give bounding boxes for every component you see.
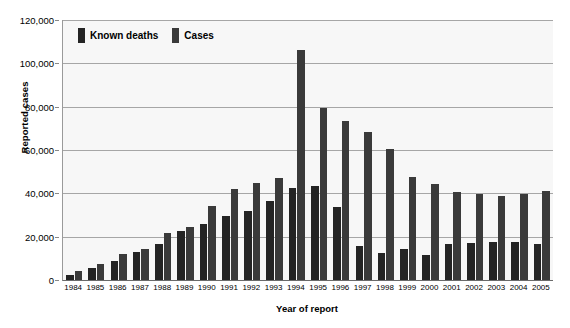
x-tick-label: 1999 bbox=[396, 283, 418, 292]
bar-known-deaths bbox=[177, 231, 185, 280]
bar-cases bbox=[364, 132, 372, 280]
year-bar-group bbox=[222, 20, 238, 280]
x-tick-label: 1985 bbox=[84, 283, 106, 292]
x-tick-label: 1986 bbox=[107, 283, 129, 292]
y-tick-label: 100,000 bbox=[20, 58, 54, 69]
bar-cases bbox=[231, 189, 239, 280]
bar-cases bbox=[342, 121, 350, 280]
year-bar-group bbox=[422, 20, 438, 280]
y-tick-mark bbox=[55, 237, 59, 238]
bar-known-deaths bbox=[467, 243, 475, 280]
x-tick-label: 1996 bbox=[329, 283, 351, 292]
bar-known-deaths bbox=[311, 186, 319, 280]
year-bar-group bbox=[445, 20, 461, 280]
bar-known-deaths bbox=[133, 252, 141, 280]
bar-cases bbox=[476, 194, 484, 280]
bar-known-deaths bbox=[422, 255, 430, 280]
year-bar-group bbox=[534, 20, 550, 280]
year-bar-group bbox=[133, 20, 149, 280]
year-bar-group bbox=[111, 20, 127, 280]
y-tick-label: 0 bbox=[49, 275, 54, 286]
legend-label: Cases bbox=[184, 30, 213, 41]
bar-cases bbox=[498, 196, 506, 281]
x-tick-label: 1984 bbox=[62, 283, 84, 292]
y-axis-tick-labels: 120,000100,00080,00060,00040,00020,0000 bbox=[0, 0, 62, 328]
x-tick-label: 2003 bbox=[485, 283, 507, 292]
year-bar-group bbox=[266, 20, 282, 280]
bar-cases bbox=[297, 50, 305, 280]
x-tick-label: 1990 bbox=[196, 283, 218, 292]
bar-cases bbox=[75, 271, 83, 280]
year-bar-group bbox=[378, 20, 394, 280]
x-tick-label: 1992 bbox=[240, 283, 262, 292]
x-tick-label: 2002 bbox=[463, 283, 485, 292]
x-tick-label: 1997 bbox=[352, 283, 374, 292]
bar-chart: Reported cases 120,000100,00080,00060,00… bbox=[0, 0, 570, 328]
bar-cases bbox=[453, 192, 461, 280]
year-bar-group bbox=[333, 20, 349, 280]
bar-cases bbox=[97, 264, 105, 280]
year-bar-group bbox=[200, 20, 216, 280]
year-bar-group bbox=[356, 20, 372, 280]
bar-known-deaths bbox=[333, 207, 341, 280]
bar-cases bbox=[409, 177, 417, 280]
y-tick-mark bbox=[55, 150, 59, 151]
year-bar-group bbox=[66, 20, 82, 280]
gridline bbox=[63, 280, 553, 281]
legend-swatch-icon bbox=[172, 28, 179, 43]
bar-cases bbox=[186, 227, 194, 280]
bar-cases bbox=[253, 183, 261, 281]
x-tick-label: 2004 bbox=[507, 283, 529, 292]
bar-cases bbox=[141, 249, 149, 280]
y-tick-mark bbox=[55, 20, 59, 21]
x-tick-label: 1988 bbox=[151, 283, 173, 292]
chart-legend: Known deathsCases bbox=[78, 28, 214, 43]
bar-cases bbox=[119, 254, 127, 280]
bar-known-deaths bbox=[511, 242, 519, 280]
bars-layer bbox=[63, 20, 553, 280]
y-tick-label: 120,000 bbox=[20, 15, 54, 26]
bar-known-deaths bbox=[155, 244, 163, 280]
legend-label: Known deaths bbox=[90, 30, 158, 41]
x-tick-label: 1989 bbox=[173, 283, 195, 292]
y-tick-label: 20,000 bbox=[25, 231, 54, 242]
x-tick-label: 1995 bbox=[307, 283, 329, 292]
year-bar-group bbox=[177, 20, 193, 280]
x-tick-label: 1987 bbox=[129, 283, 151, 292]
x-tick-label: 1994 bbox=[285, 283, 307, 292]
bar-known-deaths bbox=[222, 216, 230, 280]
year-bar-group bbox=[511, 20, 527, 280]
bar-known-deaths bbox=[111, 261, 119, 281]
bar-known-deaths bbox=[200, 224, 208, 280]
bar-known-deaths bbox=[534, 244, 542, 280]
bar-known-deaths bbox=[489, 242, 497, 280]
y-tick-mark bbox=[55, 107, 59, 108]
bar-cases bbox=[431, 184, 439, 280]
x-axis-title: Year of report bbox=[62, 303, 552, 314]
bar-cases bbox=[542, 191, 550, 280]
x-tick-label: 2000 bbox=[418, 283, 440, 292]
year-bar-group bbox=[400, 20, 416, 280]
bar-known-deaths bbox=[289, 188, 297, 280]
bar-cases bbox=[520, 194, 528, 280]
y-tick-mark bbox=[55, 193, 59, 194]
y-tick-label: 80,000 bbox=[25, 101, 54, 112]
bar-known-deaths bbox=[66, 275, 74, 280]
plot-area bbox=[62, 20, 553, 281]
year-bar-group bbox=[467, 20, 483, 280]
year-bar-group bbox=[489, 20, 505, 280]
bar-known-deaths bbox=[445, 244, 453, 280]
bar-known-deaths bbox=[400, 249, 408, 280]
x-tick-label: 1998 bbox=[374, 283, 396, 292]
year-bar-group bbox=[311, 20, 327, 280]
bar-known-deaths bbox=[244, 211, 252, 280]
x-axis-tick-labels: 1984198519861987198819891990199119921993… bbox=[62, 283, 552, 297]
bar-cases bbox=[275, 178, 283, 280]
bar-known-deaths bbox=[356, 246, 364, 280]
bar-known-deaths bbox=[266, 201, 274, 280]
y-tick-mark bbox=[55, 63, 59, 64]
y-tick-label: 40,000 bbox=[25, 188, 54, 199]
year-bar-group bbox=[289, 20, 305, 280]
bar-cases bbox=[386, 149, 394, 280]
bar-cases bbox=[164, 233, 172, 280]
